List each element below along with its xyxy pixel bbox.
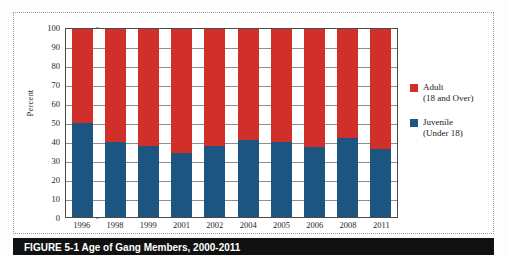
bar-segment-juvenile-2006 — [304, 147, 325, 217]
y-tick-10: 10 — [34, 194, 60, 204]
bar-column-2001 — [171, 29, 192, 217]
y-tick-50: 50 — [34, 118, 60, 128]
bar-column-2006 — [304, 29, 325, 217]
y-axis-tick-labels: 1009080706050403020100 — [34, 28, 60, 218]
legend-entry-adult: Adult(18 and Over) — [410, 82, 502, 104]
bar-segment-juvenile-2005 — [271, 142, 292, 217]
legend-sublabel-adult: (18 and Over) — [423, 93, 502, 104]
legend-swatch-adult — [410, 84, 418, 92]
y-tick-90: 90 — [34, 42, 60, 52]
chart-legend: Adult(18 and Over)Juvenile(Under 18) — [410, 82, 502, 152]
bar-column-2011 — [370, 29, 391, 217]
bar-segment-adult-2011 — [370, 29, 391, 149]
y-tick-0: 0 — [34, 213, 60, 223]
x-tick-1998: 1998 — [104, 220, 125, 230]
legend-label-adult: Adult — [423, 82, 444, 93]
bar-column-1999 — [138, 29, 159, 217]
bar-segment-adult-1999 — [138, 29, 159, 146]
y-tick-40: 40 — [34, 137, 60, 147]
bar-column-2008 — [337, 29, 358, 217]
bar-column-1996 — [72, 29, 93, 217]
bar-segment-juvenile-1996 — [72, 123, 93, 217]
y-tick-80: 80 — [34, 61, 60, 71]
x-tick-2006: 2006 — [304, 220, 325, 230]
bar-segment-juvenile-1999 — [138, 146, 159, 217]
bar-segment-adult-1998 — [105, 29, 126, 142]
figure-caption-band: FIGURE 5-1 Age of Gang Members, 2000-201… — [13, 238, 494, 255]
y-tick-30: 30 — [34, 156, 60, 166]
x-tick-2011: 2011 — [371, 220, 392, 230]
bar-segment-juvenile-2008 — [337, 138, 358, 217]
x-tick-2002: 2002 — [204, 220, 225, 230]
bar-segment-adult-2004 — [238, 29, 259, 140]
bar-segment-juvenile-2002 — [204, 146, 225, 217]
x-tick-1999: 1999 — [138, 220, 159, 230]
bar-segment-adult-2002 — [204, 29, 225, 146]
figure-caption: FIGURE 5-1 Age of Gang Members, 2000-201… — [24, 242, 240, 253]
legend-label-juvenile: Juvenile — [423, 117, 453, 128]
legend-entry-juvenile: Juvenile(Under 18) — [410, 117, 502, 139]
bar-segment-adult-1996 — [72, 29, 93, 123]
x-tick-1996: 1996 — [71, 220, 92, 230]
bar-segment-juvenile-1998 — [105, 142, 126, 217]
x-tick-2001: 2001 — [171, 220, 192, 230]
bar-segment-juvenile-2001 — [171, 153, 192, 217]
stacked-bar-chart: Percent 1009080706050403020100 199619981… — [0, 0, 508, 255]
legend-swatch-juvenile — [410, 119, 418, 127]
y-tick-100: 100 — [34, 23, 60, 33]
bar-column-2002 — [204, 29, 225, 217]
plot-area — [65, 28, 398, 218]
x-tick-2004: 2004 — [238, 220, 259, 230]
x-tick-2005: 2005 — [271, 220, 292, 230]
bar-segment-adult-2001 — [171, 29, 192, 153]
bar-segment-adult-2005 — [271, 29, 292, 142]
bar-column-1998 — [105, 29, 126, 217]
y-tick-60: 60 — [34, 99, 60, 109]
y-tick-20: 20 — [34, 175, 60, 185]
bar-column-2005 — [271, 29, 292, 217]
bar-segment-adult-2006 — [304, 29, 325, 147]
y-tick-70: 70 — [34, 80, 60, 90]
x-axis-tick-labels: 1996199819992001200220042005200620082011 — [65, 220, 398, 230]
bar-segment-juvenile-2004 — [238, 140, 259, 217]
legend-sublabel-juvenile: (Under 18) — [423, 128, 502, 139]
bar-segment-adult-2008 — [337, 29, 358, 138]
x-tick-2008: 2008 — [338, 220, 359, 230]
bar-segment-juvenile-2011 — [370, 149, 391, 217]
figure-page: Percent 1009080706050403020100 199619981… — [0, 0, 508, 255]
bar-column-2004 — [238, 29, 259, 217]
bar-series-group — [66, 29, 397, 217]
